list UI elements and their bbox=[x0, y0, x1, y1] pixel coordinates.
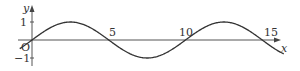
x-tick-label-10: 10 bbox=[179, 26, 193, 39]
x-tick-label-15: 15 bbox=[264, 26, 278, 39]
sine-plot: y x O 1 −1 5 10 15 bbox=[0, 0, 300, 71]
y-tick-label-minus1: −1 bbox=[14, 52, 30, 65]
y-axis-arrow-icon bbox=[30, 5, 35, 12]
y-axis-label: y bbox=[22, 2, 30, 15]
x-axis-label: x bbox=[281, 42, 288, 55]
x-tick-label-5: 5 bbox=[109, 26, 116, 39]
y-tick-label-1: 1 bbox=[20, 16, 27, 29]
